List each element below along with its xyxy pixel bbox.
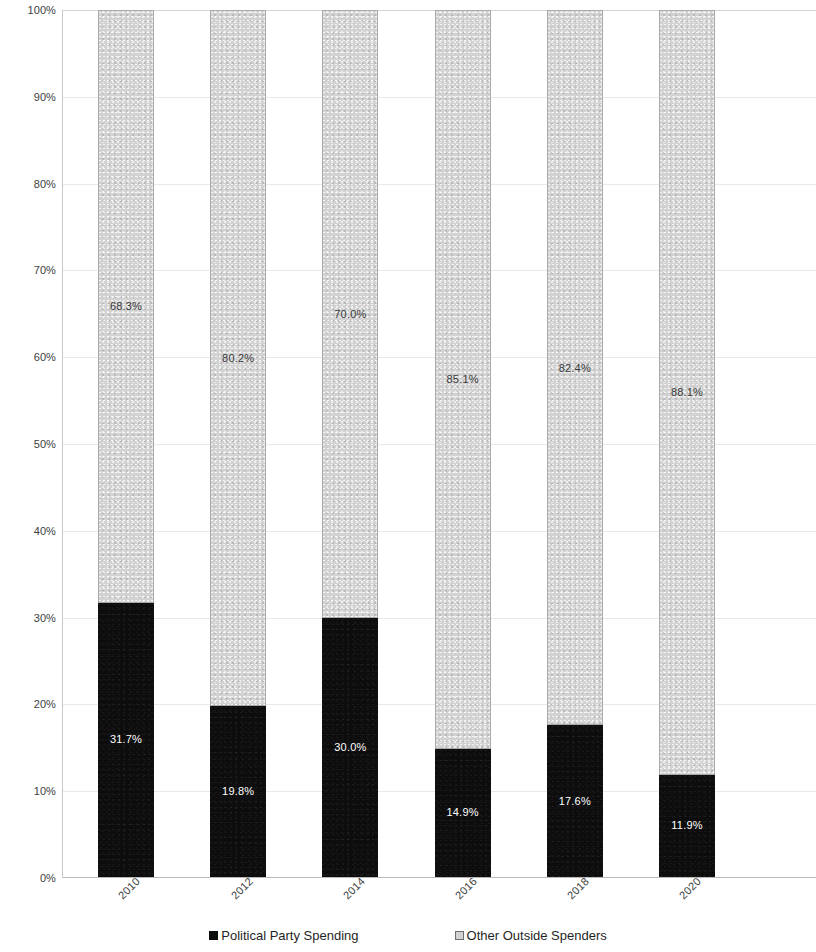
bar-segment-political-party-spending[interactable]: 14.9% <box>435 749 491 878</box>
y-axis-tick-label: 50% <box>4 438 56 450</box>
x-axis-tick-text: 2014 <box>340 875 366 901</box>
x-axis-tick-label: 2018 <box>546 884 602 896</box>
bar-group[interactable]: 88.1%11.9% <box>659 10 715 878</box>
y-axis-tick-label: 90% <box>4 91 56 103</box>
bar-segment-other-outside-spenders[interactable]: 80.2% <box>210 10 266 706</box>
bar-segment-other-outside-spenders[interactable]: 82.4% <box>547 10 603 725</box>
bar-segment-political-party-spending[interactable]: 17.6% <box>547 725 603 878</box>
x-axis-tick-text: 2010 <box>116 875 142 901</box>
y-axis-tick-label: 60% <box>4 351 56 363</box>
x-axis-tick-text: 2018 <box>565 875 591 901</box>
bar-value-label: 30.0% <box>322 741 378 753</box>
y-axis-tick-label: 10% <box>4 785 56 797</box>
x-axis-tick-label: 2020 <box>658 884 714 896</box>
bar-segment-political-party-spending[interactable]: 19.8% <box>210 706 266 878</box>
x-axis-tick-text: 2020 <box>677 875 703 901</box>
bar-segment-other-outside-spenders[interactable]: 85.1% <box>435 10 491 749</box>
x-axis-tick-label: 2016 <box>434 884 490 896</box>
bar-group[interactable]: 85.1%14.9% <box>435 10 491 878</box>
bar-value-label: 17.6% <box>547 795 603 807</box>
x-axis-tick-label: 2014 <box>321 884 377 896</box>
bar-value-label: 31.7% <box>98 733 154 745</box>
bar-segment-political-party-spending[interactable]: 11.9% <box>659 775 715 878</box>
bar-segment-political-party-spending[interactable]: 31.7% <box>98 603 154 878</box>
bar-value-label: 19.8% <box>210 785 266 797</box>
x-axis-tick-label: 2010 <box>97 884 153 896</box>
x-axis-tick-text: 2012 <box>228 875 254 901</box>
y-axis-tick-label: 20% <box>4 698 56 710</box>
bar-segment-other-outside-spenders[interactable]: 68.3% <box>98 10 154 603</box>
plot-area: 68.3%31.7%80.2%19.8%70.0%30.0%85.1%14.9%… <box>62 10 816 878</box>
bar-value-label: 11.9% <box>659 819 715 831</box>
bar-group[interactable]: 82.4%17.6% <box>547 10 603 878</box>
bar-value-label: 88.1% <box>660 386 714 398</box>
x-axis-tick-text: 2016 <box>453 875 479 901</box>
bar-value-label: 82.4% <box>548 362 602 374</box>
legend-item-label: Political Party Spending <box>221 928 358 943</box>
legend-item[interactable]: Other Outside Spenders <box>455 928 607 943</box>
y-axis-tick-label: 80% <box>4 178 56 190</box>
x-axis-tick-label: 2012 <box>209 884 265 896</box>
bar-group[interactable]: 80.2%19.8% <box>210 10 266 878</box>
bar-segment-political-party-spending[interactable]: 30.0% <box>322 618 378 878</box>
bar-value-label: 80.2% <box>211 352 265 364</box>
bar-value-label: 14.9% <box>435 806 491 818</box>
chart-legend: Political Party SpendingOther Outside Sp… <box>0 928 816 952</box>
y-axis: 0%10%20%30%40%50%60%70%80%90%100% <box>0 10 56 878</box>
bar-group[interactable]: 68.3%31.7% <box>98 10 154 878</box>
bar-value-label: 85.1% <box>436 373 490 385</box>
bar-segment-other-outside-spenders[interactable]: 70.0% <box>322 10 378 618</box>
y-axis-tick-label: 70% <box>4 264 56 276</box>
stacked-bar-chart: 0%10%20%30%40%50%60%70%80%90%100% 68.3%3… <box>0 0 816 952</box>
bar-segment-other-outside-spenders[interactable]: 88.1% <box>659 10 715 775</box>
x-axis: 201020122014201620182020 <box>62 878 816 924</box>
bar-value-label: 68.3% <box>99 300 153 312</box>
y-axis-tick-label: 0% <box>4 872 56 884</box>
outlined-gray-square-icon <box>455 931 464 940</box>
bar-value-label: 70.0% <box>323 308 377 320</box>
filled-black-square-icon <box>209 931 218 940</box>
y-axis-tick-label: 40% <box>4 525 56 537</box>
legend-item[interactable]: Political Party Spending <box>209 928 358 943</box>
y-axis-tick-label: 100% <box>4 4 56 16</box>
y-axis-tick-label: 30% <box>4 612 56 624</box>
legend-item-label: Other Outside Spenders <box>467 928 607 943</box>
bar-group[interactable]: 70.0%30.0% <box>322 10 378 878</box>
